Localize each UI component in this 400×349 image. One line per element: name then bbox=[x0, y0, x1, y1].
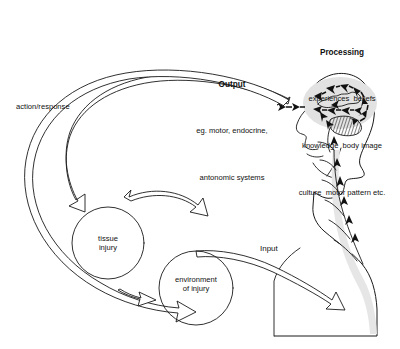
output-line-2: antonomic systems bbox=[180, 174, 284, 183]
output-heading: Output bbox=[180, 80, 284, 90]
tissue-injury-label-group: tissue injury bbox=[78, 234, 138, 253]
output-label-group: Output eg. motor, endocrine, antonomic s… bbox=[180, 42, 284, 221]
output-line-1: eg. motor, endocrine, bbox=[180, 127, 284, 136]
tissue-injury-line-1: tissue bbox=[78, 234, 138, 243]
tissue-injury-line-2: injury bbox=[78, 243, 138, 252]
processing-line-3: culture motor pattern etc. bbox=[284, 189, 400, 198]
processing-line-2: knowledge body image bbox=[284, 142, 400, 151]
environment-of-injury-line-1: environment bbox=[158, 275, 234, 284]
processing-heading: Processing bbox=[284, 48, 400, 58]
input-label: Input bbox=[260, 244, 278, 253]
action-response-label: action/response bbox=[16, 103, 70, 112]
environment-of-injury-line-2: of injury bbox=[158, 284, 234, 293]
processing-line-1: experiences beliefs bbox=[284, 95, 400, 104]
processing-label-group: Processing experiences beliefs knowledge… bbox=[284, 10, 400, 235]
pain-processing-diagram: Processing experiences beliefs knowledge… bbox=[0, 0, 400, 349]
environment-of-injury-label-group: environment of injury bbox=[158, 275, 234, 294]
